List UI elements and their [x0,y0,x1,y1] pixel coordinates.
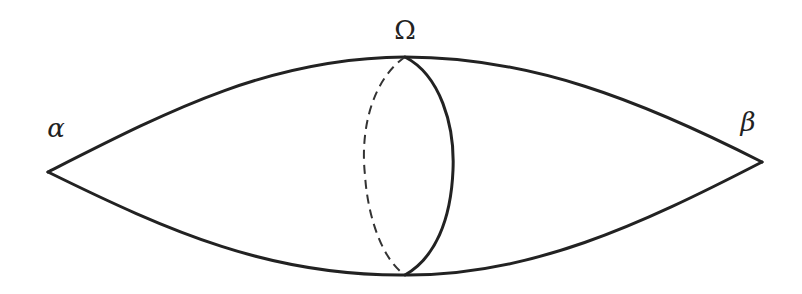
diagram-canvas: α Ω β [0,0,802,294]
label-beta: β [740,109,755,135]
cross-section-front-solid [405,57,453,275]
cross-section-back-dashed [364,57,405,275]
label-omega: Ω [394,17,416,43]
label-alpha: α [47,115,65,141]
lower-outline-curve [48,162,762,275]
upper-outline-curve [48,57,762,172]
